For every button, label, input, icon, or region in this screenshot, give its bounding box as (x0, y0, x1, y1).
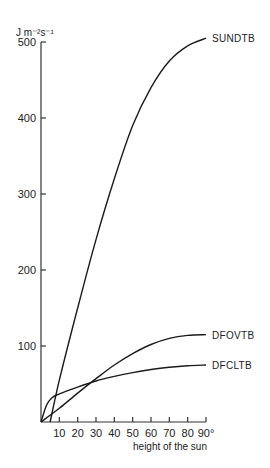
series-label-dfcltb: DFCLTB (212, 360, 252, 371)
x-tick-label: 10 (53, 427, 65, 439)
series-label-sundtb: SUNDTB (212, 33, 255, 44)
series-line-dfovtb (41, 335, 206, 422)
chart: 100200300400500 102030405060708090° SUND… (0, 0, 270, 468)
x-tick-label: 70 (163, 427, 175, 439)
x-axis-title: height of the sun (133, 441, 207, 452)
x-tick-label: 60 (145, 427, 157, 439)
y-tick-label: 300 (18, 188, 36, 200)
x-tick-label: 80 (182, 427, 194, 439)
series-label-dfovtb: DFOVTB (212, 330, 254, 341)
x-tick-label: 40 (108, 427, 120, 439)
series-line-dfcltb (41, 365, 206, 422)
x-tick-label: 90° (198, 427, 215, 439)
x-tick-label: 50 (127, 427, 139, 439)
x-tick-label: 30 (90, 427, 102, 439)
axes (41, 42, 206, 422)
y-axis-title: J m⁻²s⁻¹ (16, 27, 54, 38)
series-line-sundtb (50, 38, 206, 422)
x-tick-label: 20 (72, 427, 84, 439)
y-tick-label: 200 (18, 264, 36, 276)
y-tick-label: 400 (18, 112, 36, 124)
y-tick-label: 100 (18, 340, 36, 352)
